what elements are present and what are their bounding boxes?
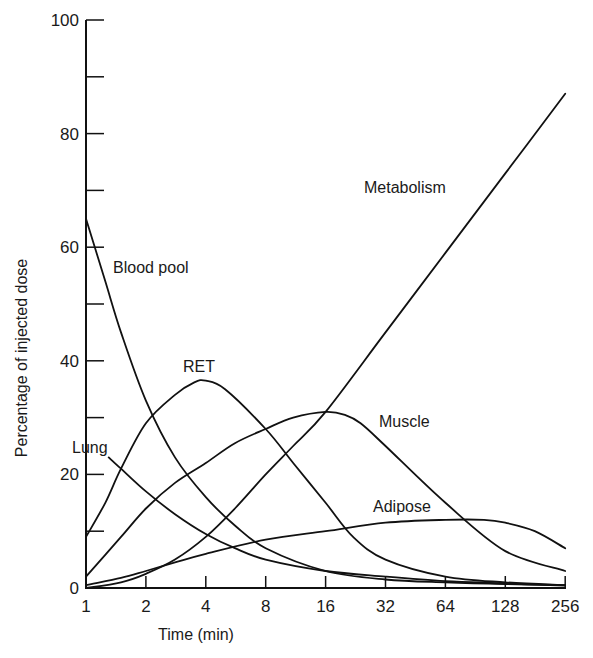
series-labels: Blood poolRETLungMuscleMetabolismAdipose	[72, 179, 446, 515]
y-tick-label: 20	[60, 465, 79, 484]
curve-metabolism	[86, 94, 565, 588]
y-tick-label: 60	[60, 238, 79, 257]
label-metabolism: Metabolism	[364, 179, 446, 196]
y-tick-label: 0	[70, 579, 79, 598]
series-curves	[86, 94, 565, 588]
label-adipose: Adipose	[373, 498, 431, 515]
y-tick-label: 100	[51, 11, 79, 30]
label-muscle: Muscle	[379, 413, 430, 430]
label-ret: RET	[183, 358, 215, 375]
x-tick-label: 32	[376, 597, 395, 616]
x-tick-label: 128	[491, 597, 519, 616]
y-tick-label: 80	[60, 125, 79, 144]
y-tick-label: 40	[60, 352, 79, 371]
x-tick-label: 1	[81, 597, 90, 616]
x-tick-label: 16	[316, 597, 335, 616]
y-axis-title: Percentage of injected dose	[13, 259, 30, 457]
x-tick-label: 256	[551, 597, 579, 616]
x-tick-label: 2	[141, 597, 150, 616]
y-axis: 020406080100	[51, 11, 104, 598]
x-axis-title: Time (min)	[158, 626, 234, 643]
x-tick-label: 8	[261, 597, 270, 616]
label-lung: Lung	[72, 439, 108, 456]
label-blood-pool: Blood pool	[113, 259, 189, 276]
curve-adipose	[86, 520, 565, 586]
x-tick-label: 64	[436, 597, 455, 616]
y-ticks: 020406080100	[51, 11, 104, 598]
chart: 020406080100 1248163264128256 Blood pool…	[0, 0, 593, 658]
x-tick-label: 4	[201, 597, 210, 616]
curve-muscle	[86, 412, 565, 577]
